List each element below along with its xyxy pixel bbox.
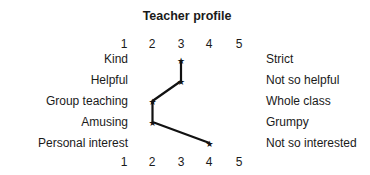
star-marker-icon: ★ [148, 97, 156, 107]
star-marker-icon: ★ [148, 118, 156, 128]
profile-plot: ★★★★★ [0, 0, 370, 175]
bottom-tick-4: 4 [202, 155, 216, 169]
bottom-tick-5: 5 [232, 155, 246, 169]
profile-line [153, 60, 210, 143]
star-marker-icon: ★ [205, 139, 213, 149]
star-marker-icon: ★ [177, 56, 185, 66]
star-marker-icon: ★ [177, 77, 185, 87]
bottom-tick-1: 1 [117, 155, 131, 169]
bottom-tick-2: 2 [145, 155, 159, 169]
bottom-tick-3: 3 [174, 155, 188, 169]
